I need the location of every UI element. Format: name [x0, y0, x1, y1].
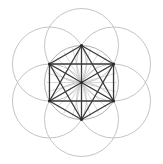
hexagon-vertex — [80, 44, 83, 47]
hexagon-vertex — [48, 62, 51, 65]
sacred-geometry-figure — [0, 0, 163, 164]
hexagon-vertex — [80, 118, 83, 121]
hexagon-vertex — [48, 99, 51, 102]
hexagon-vertex — [112, 62, 115, 65]
center-vertex — [80, 81, 83, 84]
hexagon-vertex — [112, 99, 115, 102]
